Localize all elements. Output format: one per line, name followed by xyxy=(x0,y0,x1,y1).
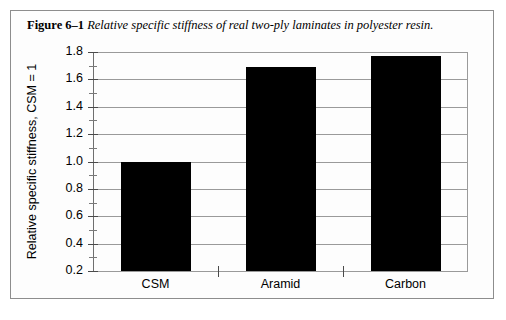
x-axis-tick xyxy=(343,266,344,277)
y-axis-tick xyxy=(88,79,98,80)
y-axis-tick-label: 1.4 xyxy=(66,100,83,112)
y-axis-tick xyxy=(88,216,98,217)
y-axis-minor-tick xyxy=(89,203,97,204)
y-axis-tick xyxy=(88,162,98,163)
bar-carbon xyxy=(371,56,441,271)
y-axis-tick xyxy=(88,189,98,190)
y-axis-minor-tick xyxy=(89,120,97,121)
x-axis-label-csm: CSM xyxy=(93,277,218,291)
bar-csm xyxy=(121,162,191,271)
y-axis-tick xyxy=(88,271,98,272)
y-axis-tick-label: 0.8 xyxy=(66,182,83,194)
y-axis-tick-label: 1.8 xyxy=(66,45,83,57)
plot-top-border xyxy=(93,52,468,53)
y-axis-tick xyxy=(88,52,98,53)
y-axis-tick-label: 0.4 xyxy=(66,237,83,249)
x-axis-label-carbon: Carbon xyxy=(343,277,468,291)
y-axis-tick-label: 1.2 xyxy=(66,127,83,139)
y-axis-tick xyxy=(88,244,98,245)
figure-frame: Figure 6–1 Relative specific stiffness o… xyxy=(10,10,494,299)
y-axis-minor-tick xyxy=(89,66,97,67)
y-axis-tick-label: 0.2 xyxy=(66,264,83,276)
x-axis-tick xyxy=(218,266,219,277)
x-axis-label-aramid: Aramid xyxy=(218,277,343,291)
y-axis-tick-label: 1.6 xyxy=(66,72,83,84)
plot-area: 1.81.61.41.21.00.80.60.40.2 CSMAramidCar… xyxy=(93,52,468,271)
y-axis-tick-label: 0.6 xyxy=(66,209,83,221)
y-axis-tick xyxy=(88,107,98,108)
gridline xyxy=(93,271,468,272)
y-axis-tick-label: 1.0 xyxy=(66,155,83,167)
y-axis-minor-tick xyxy=(89,257,97,258)
y-axis-title: Relative specific stiffness, CSM = 1 xyxy=(24,52,40,271)
bar-chart: Relative specific stiffness, CSM = 1 1.8… xyxy=(11,11,495,300)
y-axis-minor-tick xyxy=(89,230,97,231)
bar-aramid xyxy=(246,67,316,271)
y-axis-minor-tick xyxy=(89,93,97,94)
y-axis-minor-tick xyxy=(89,148,97,149)
y-axis-minor-tick xyxy=(89,175,97,176)
y-axis-tick xyxy=(88,134,98,135)
